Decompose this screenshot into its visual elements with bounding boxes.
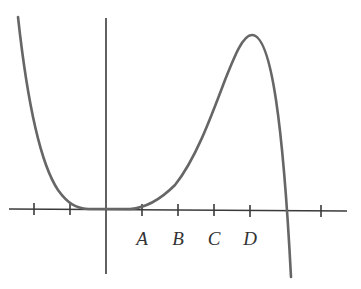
tick-label-b: B <box>172 229 184 248</box>
tick-label-c: C <box>208 229 221 248</box>
tick-label-d: D <box>243 229 257 248</box>
tick-label-a: A <box>136 229 148 248</box>
